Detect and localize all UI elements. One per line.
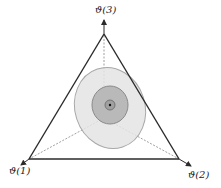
vertex-label-top: ϑ(3) [95,4,116,15]
simplex-diagram [0,0,221,188]
vertex-label-right: ϑ(2) [188,169,209,180]
vertex-label-left: ϑ(1) [9,165,30,176]
center-point [109,104,111,106]
arrow-right-icon [179,159,191,166]
